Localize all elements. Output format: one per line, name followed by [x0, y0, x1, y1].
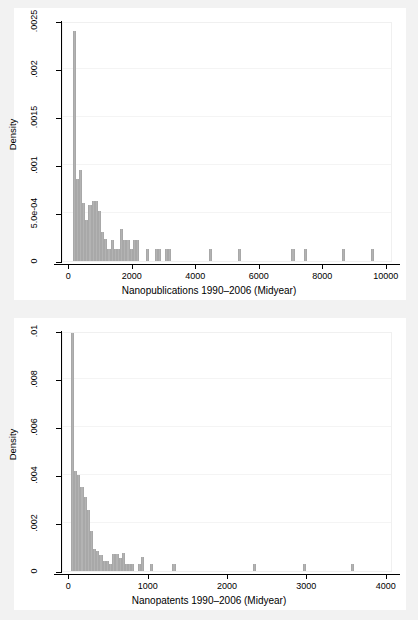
histogram-bar [168, 249, 171, 261]
x-tick-label: 10000 [361, 271, 411, 281]
plot-area-nanopatents [62, 332, 392, 572]
y-tick-mark [56, 524, 61, 525]
gridline [63, 68, 391, 69]
x-tick-mark [132, 264, 133, 269]
histogram-bar [303, 564, 306, 571]
y-tick-mark [56, 476, 61, 477]
x-tick-mark [386, 574, 387, 579]
x-tick-mark [306, 574, 307, 579]
histogram-bar [146, 249, 149, 261]
histogram-bar [342, 249, 345, 261]
x-tick-mark [148, 574, 149, 579]
histogram-bar [351, 564, 354, 571]
x-tick-label: 3000 [281, 581, 331, 591]
histogram-bar [141, 557, 144, 571]
y-tick-label: .01 [29, 301, 39, 361]
y-tick-mark [56, 572, 61, 573]
y-tick-mark [56, 262, 61, 263]
histogram-bar [209, 249, 212, 261]
y-axis-title-0: Density [7, 105, 18, 165]
histogram-bar [131, 564, 134, 571]
x-tick-mark [68, 264, 69, 269]
x-tick-label: 4000 [361, 581, 411, 591]
gridline [63, 522, 391, 523]
histogram-bar [150, 564, 153, 571]
histogram-bar [291, 249, 294, 261]
x-axis-title-1: Nanopatents 1990–2006 (Midyear) [0, 595, 418, 606]
x-tick-mark [259, 264, 260, 269]
y-axis-line-1 [61, 331, 62, 573]
x-axis-line-0 [54, 264, 400, 265]
plot-area-nanopublications [62, 22, 392, 262]
x-tick-label: 0 [43, 581, 93, 591]
gridline [63, 378, 391, 379]
gridline [63, 164, 391, 165]
x-tick-label: 0 [43, 271, 93, 281]
y-tick-mark [56, 214, 61, 215]
y-axis-line-0 [61, 21, 62, 263]
y-tick-mark [56, 166, 61, 167]
x-tick-mark [195, 264, 196, 269]
gridline [63, 426, 391, 427]
histogram-bar [172, 564, 175, 571]
gridline [63, 212, 391, 213]
x-tick-label: 8000 [297, 271, 347, 281]
y-tick-label: .0025 [29, 0, 39, 51]
histogram-bar [304, 249, 307, 261]
histogram-bar [253, 564, 256, 571]
y-tick-mark [56, 22, 61, 23]
gridline [63, 474, 391, 475]
x-tick-mark [386, 264, 387, 269]
y-tick-mark [56, 70, 61, 71]
y-tick-mark [56, 118, 61, 119]
figure-container: 05.0e-04.001.0015.002.002502000400060008… [0, 0, 418, 620]
x-tick-label: 2000 [202, 581, 252, 591]
histogram-bar [238, 249, 241, 261]
histogram-bar [371, 249, 374, 261]
y-tick-mark [56, 332, 61, 333]
x-tick-mark [227, 574, 228, 579]
x-tick-mark [322, 264, 323, 269]
x-axis-title-0: Nanopublications 1990–2006 (Midyear) [0, 285, 418, 296]
y-tick-mark [56, 428, 61, 429]
histogram-bar [136, 240, 139, 261]
x-tick-label: 4000 [170, 271, 220, 281]
x-tick-label: 2000 [107, 271, 157, 281]
gridline [63, 116, 391, 117]
x-tick-label: 1000 [123, 581, 173, 591]
histogram-bar [158, 249, 161, 261]
x-tick-mark [68, 574, 69, 579]
y-tick-mark [56, 380, 61, 381]
x-tick-label: 6000 [234, 271, 284, 281]
y-axis-title-1: Density [7, 415, 18, 475]
